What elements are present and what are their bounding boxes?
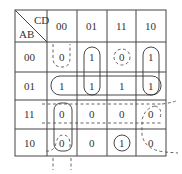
col-header-00: 00 (56, 20, 68, 32)
row-header-01: 01 (24, 80, 35, 92)
cell: 1 (89, 80, 95, 92)
cell: 1 (119, 80, 125, 92)
cell: 0 (119, 51, 125, 63)
row-header-00: 00 (24, 51, 36, 63)
cell: 1 (148, 51, 154, 63)
row-header-11: 11 (24, 108, 35, 120)
cell: 1 (119, 137, 125, 149)
cell: 0 (89, 137, 95, 149)
loop-cell-10-00-wrap (46, 135, 70, 151)
col-header-10: 10 (145, 20, 157, 32)
cell: 1 (89, 51, 95, 63)
cell: 0 (148, 108, 154, 120)
cell: 0 (59, 108, 65, 120)
cell: 0 (59, 51, 65, 63)
cell: 1 (59, 80, 65, 92)
col-header-01: 01 (86, 20, 97, 32)
loop-col10-rows11-10-top (155, 106, 161, 118)
cell: 0 (59, 137, 65, 149)
cell: 0 (89, 108, 95, 120)
solid-groupings (51, 47, 161, 151)
corner-label-ab: AB (19, 28, 34, 40)
corner-label-cd: CD (34, 14, 49, 26)
cell: 0 (148, 137, 154, 149)
row-header-10: 10 (24, 137, 36, 149)
col-header-11: 11 (116, 20, 127, 32)
cell: 0 (119, 108, 125, 120)
cell: 1 (148, 80, 154, 92)
loop-row11-wrap-ext (162, 101, 176, 104)
karnaugh-map: CD AB 00 01 11 10 00 01 11 10 0 1 0 1 1 … (0, 0, 182, 174)
